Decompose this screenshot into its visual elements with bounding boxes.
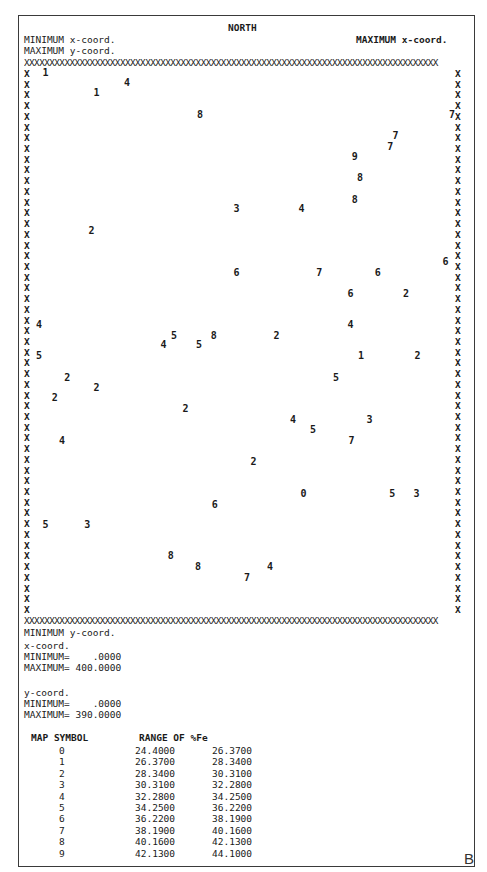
legend-range-high: 28.3400 xyxy=(212,756,252,767)
map-point: 8 xyxy=(197,110,203,120)
map-point: 4 xyxy=(348,320,354,330)
map-bottom-border: XXXXXXXXXXXXXXXXXXXXXXXXXXXXXXXXXXXXXXXX… xyxy=(24,616,462,626)
map-point: 6 xyxy=(212,500,218,510)
legend-range-low: 38.1900 xyxy=(135,825,175,836)
map-top-border: XXXXXXXXXXXXXXXXXXXXXXXXXXXXXXXXXXXXXXXX… xyxy=(24,58,462,68)
y-coord-min: MINIMUM= .0000 xyxy=(24,699,121,709)
map-point: 6 xyxy=(234,268,240,278)
map-point: 9 xyxy=(352,152,358,162)
x-coord-title: x-coord. xyxy=(24,641,70,651)
max-x-label: MAXIMUM x-coord. xyxy=(356,35,448,45)
panel-label: B xyxy=(464,851,474,866)
x-coord-min: MINIMUM= .0000 xyxy=(24,652,121,662)
map-point: 3 xyxy=(413,489,419,499)
map-point: 7 xyxy=(349,436,355,446)
map-point: 7 xyxy=(387,142,393,152)
legend-range-high: 42.1300 xyxy=(212,836,252,847)
legend-range-low: 24.4000 xyxy=(135,745,175,756)
legend-range-low: 34.2500 xyxy=(135,802,175,813)
legend-range-high: 30.3100 xyxy=(212,768,252,779)
legend-symbol: 9 xyxy=(59,848,65,859)
map-point: 5 xyxy=(36,351,42,361)
map-point: 5 xyxy=(171,331,177,341)
legend-range-low: 30.3100 xyxy=(135,779,175,790)
legend-range-low: 32.2800 xyxy=(135,791,175,802)
legend-range-low: 36.2200 xyxy=(135,813,175,824)
map-point: 8 xyxy=(352,195,358,205)
map-right-border: X X X X X X X X X X X X X X X X X X X X … xyxy=(455,69,461,616)
map-point: 2 xyxy=(414,351,420,361)
legend-symbol: 5 xyxy=(59,802,65,813)
map-point: 7 xyxy=(244,573,250,583)
map-point: 4 xyxy=(267,562,273,572)
map-point: 3 xyxy=(234,204,240,214)
map-point: 2 xyxy=(64,373,70,383)
map-point: 7 xyxy=(449,110,455,120)
map-point: 4 xyxy=(59,436,65,446)
map-point: 5 xyxy=(42,520,48,530)
map-left-border: X X X X X X X X X X X X X X X X X X X X … xyxy=(24,69,30,616)
map-point: 4 xyxy=(36,320,42,330)
min-y-label: MINIMUM y-coord. xyxy=(24,628,116,638)
max-y-label: MAXIMUM y-coord. xyxy=(24,46,116,56)
legend-symbol: 6 xyxy=(59,813,65,824)
map-point: 4 xyxy=(161,340,167,350)
y-coord-max: MAXIMUM= 390.0000 xyxy=(24,710,121,720)
map-point: 2 xyxy=(403,289,409,299)
x-coord-max: MAXIMUM= 400.0000 xyxy=(24,663,121,673)
legend-range-low: 26.3700 xyxy=(135,756,175,767)
map-point: 1 xyxy=(94,88,100,98)
legend-symbol: 1 xyxy=(59,756,65,767)
legend-symbol: 3 xyxy=(59,779,65,790)
map-point: 3 xyxy=(366,415,372,425)
legend-symbol: 2 xyxy=(59,768,65,779)
legend-header-range: RANGE OF %Fe xyxy=(139,733,208,743)
north-label: NORTH xyxy=(228,23,257,33)
map-point: 4 xyxy=(290,415,296,425)
map-point: 6 xyxy=(443,257,449,267)
map-point: 8 xyxy=(211,331,217,341)
map-point: 2 xyxy=(182,404,188,414)
map-point: 7 xyxy=(316,268,322,278)
map-point: 2 xyxy=(250,457,256,467)
map-point: 5 xyxy=(333,373,339,383)
legend-range-high: 34.2500 xyxy=(212,791,252,802)
map-point: 4 xyxy=(124,78,130,88)
map-point: 6 xyxy=(375,268,381,278)
map-point: 4 xyxy=(298,204,304,214)
map-point: 2 xyxy=(88,226,94,236)
map-point: 8 xyxy=(168,551,174,561)
map-point: 2 xyxy=(52,393,58,403)
map-point: 1 xyxy=(358,351,364,361)
legend-symbol: 4 xyxy=(59,791,65,802)
legend-range-high: 26.3700 xyxy=(212,745,252,756)
legend-range-high: 38.1900 xyxy=(212,813,252,824)
legend-range-low: 42.1300 xyxy=(135,848,175,859)
map-point: 1 xyxy=(42,68,48,78)
map-point: 8 xyxy=(357,173,363,183)
legend-range-high: 40.1600 xyxy=(212,825,252,836)
map-point: 5 xyxy=(310,425,316,435)
map-point: 7 xyxy=(393,131,399,141)
legend-symbol: 0 xyxy=(59,745,65,756)
map-point: 3 xyxy=(84,520,90,530)
legend-symbol: 7 xyxy=(59,825,65,836)
legend-range-high: 36.2200 xyxy=(212,802,252,813)
y-coord-title: y-coord. xyxy=(24,688,70,698)
legend-range-low: 28.3400 xyxy=(135,768,175,779)
map-point: 0 xyxy=(301,489,307,499)
legend-symbol: 8 xyxy=(59,836,65,847)
map-point: 8 xyxy=(195,562,201,572)
map-point: 2 xyxy=(273,331,279,341)
legend-header-symbol: MAP SYMBOL xyxy=(31,733,88,743)
map-point: 6 xyxy=(348,289,354,299)
legend-range-high: 44.1000 xyxy=(212,848,252,859)
map-point: 2 xyxy=(94,383,100,393)
map-point: 5 xyxy=(389,489,395,499)
min-x-label: MINIMUM x-coord. xyxy=(24,35,116,45)
legend-range-high: 32.2800 xyxy=(212,779,252,790)
map-point: 5 xyxy=(196,340,202,350)
legend-range-low: 40.1600 xyxy=(135,836,175,847)
